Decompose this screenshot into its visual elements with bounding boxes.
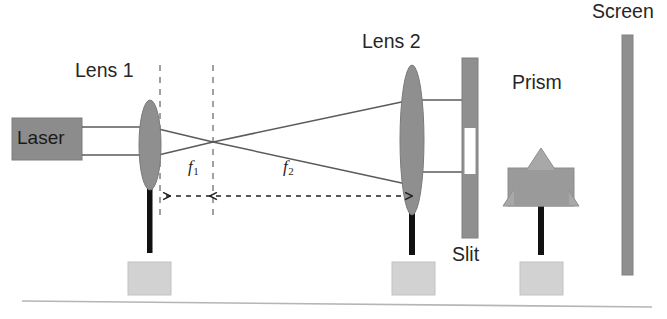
diagram-canvas xyxy=(0,0,667,319)
base-lens2 xyxy=(392,262,435,295)
lens1-label: Lens 1 xyxy=(75,61,134,81)
screen-element xyxy=(622,35,633,275)
post-prism xyxy=(538,205,544,255)
focal-length-1-label: f1 xyxy=(188,158,198,175)
stand-prism xyxy=(520,205,563,295)
prism-element xyxy=(503,148,579,206)
prism-label: Prism xyxy=(512,73,562,93)
slit-label: Slit xyxy=(452,245,479,265)
lens2-element xyxy=(400,65,424,215)
ray-diverge-lower xyxy=(213,142,411,185)
slit-aperture xyxy=(465,128,476,174)
prism-mount-front xyxy=(514,170,569,206)
slit-element xyxy=(462,58,478,238)
ray-diverge-upper xyxy=(213,100,411,142)
stand-lens1 xyxy=(128,178,171,295)
base-prism xyxy=(520,262,563,295)
stand-lens2 xyxy=(392,205,435,295)
focal-length-2-label: f2 xyxy=(283,158,293,175)
base-lens1 xyxy=(128,262,171,295)
f2-subscript: 2 xyxy=(288,165,294,177)
lens2-label: Lens 2 xyxy=(362,32,421,52)
laser-label: Laser xyxy=(17,128,65,147)
screen-label: Screen xyxy=(592,2,654,22)
table-surface-line xyxy=(22,301,652,307)
lens1-element xyxy=(139,100,161,190)
f1-subscript: 1 xyxy=(193,165,199,177)
optics-setup-diagram: Laser Lens 1 Lens 2 Prism Screen Slit f1… xyxy=(0,0,667,319)
